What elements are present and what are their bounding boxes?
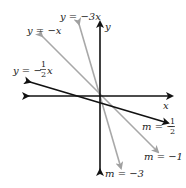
- y-axis-label: y: [104, 21, 111, 32]
- label-eq-neg1: y = −x: [26, 25, 62, 36]
- label-m-neg1: m = −1: [144, 151, 183, 162]
- label-m-neg3: m = −3: [105, 168, 144, 179]
- slope-diagram: y x y = −3x y = −x y = − 1 2 x m = − 1 2…: [0, 0, 186, 188]
- svg-text:y = −: y = −: [12, 65, 42, 76]
- line-slope-neghalf: [30, 82, 168, 123]
- x-axis-label: x: [163, 100, 169, 111]
- label-eq-neghalf: y = − 1 2 x: [12, 60, 53, 79]
- svg-text:2: 2: [170, 127, 175, 136]
- label-eq-neg3: y = −3x: [59, 11, 101, 22]
- svg-text:1: 1: [41, 60, 46, 69]
- svg-text:2: 2: [41, 70, 46, 79]
- svg-text:x: x: [47, 65, 53, 76]
- svg-text:1: 1: [170, 117, 175, 126]
